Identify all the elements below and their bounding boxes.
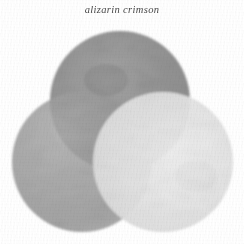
- wash-bloom-right: [175, 160, 217, 192]
- venn-svg: [0, 0, 244, 244]
- wash-bloom-top: [84, 64, 128, 96]
- venn-diagram-figure: [0, 0, 244, 244]
- plate-canvas: alizarin crimson: [0, 0, 244, 244]
- wash-bloom-left: [36, 127, 76, 153]
- venn-circle-right: [93, 92, 233, 232]
